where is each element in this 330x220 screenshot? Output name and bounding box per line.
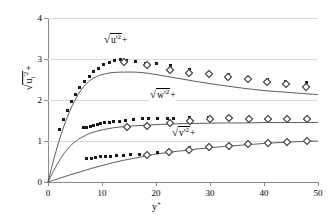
- data-point-filled-square: [99, 122, 102, 125]
- data-point-filled-square: [58, 128, 61, 131]
- series-label-v-radical: √v'2+: [172, 126, 195, 139]
- xtick-label-20: 20: [144, 189, 168, 198]
- data-point-open-diamond: [206, 115, 214, 123]
- data-point-open-diamond: [205, 143, 213, 151]
- data-point-open-diamond: [165, 148, 173, 156]
- radicand-group: ui'2: [22, 71, 38, 85]
- data-point-open-diamond: [302, 83, 310, 91]
- data-point-filled-square: [96, 123, 99, 126]
- xtick-label-10: 10: [90, 189, 114, 198]
- data-point-open-diamond: [281, 80, 289, 88]
- data-point-filled-square: [104, 155, 107, 158]
- xtick-label-0: 0: [36, 189, 60, 198]
- series-label-u-radical: √u'2+: [104, 33, 127, 46]
- data-point-open-diamond: [165, 65, 173, 73]
- data-point-filled-square: [62, 118, 65, 121]
- series-label-w-radical: √w'2+: [150, 88, 175, 101]
- data-point-filled-square: [70, 100, 73, 103]
- data-point-filled-square: [132, 118, 135, 121]
- data-point-filled-square: [147, 117, 150, 120]
- data-point-filled-square: [78, 86, 81, 89]
- data-point-filled-square: [122, 154, 125, 157]
- radicand-superscript: 2: [186, 126, 190, 134]
- x-axis-superscript: +: [157, 200, 161, 208]
- data-point-open-diamond: [205, 70, 213, 78]
- series-label-w: √w'2+: [149, 88, 176, 101]
- data-point-filled-square: [172, 117, 175, 120]
- x-axis-line: [48, 182, 319, 183]
- data-point-filled-square: [83, 80, 86, 83]
- data-point-filled-square: [118, 120, 121, 123]
- data-point-filled-square: [129, 153, 132, 156]
- data-point-filled-square: [94, 156, 97, 159]
- x-axis-title: y+: [152, 200, 161, 212]
- data-point-filled-square: [92, 124, 95, 127]
- data-point-filled-square: [156, 117, 159, 120]
- y-axis-title: √ui'2+: [22, 46, 38, 110]
- data-point-filled-square: [109, 155, 112, 158]
- series-label-u: √u'2+: [103, 33, 128, 46]
- data-point-open-diamond: [185, 145, 193, 153]
- data-point-open-diamond: [283, 115, 291, 123]
- ytick-label-0: 0: [26, 178, 42, 187]
- data-point-filled-square: [138, 153, 141, 156]
- data-point-open-diamond: [143, 151, 151, 159]
- data-point-filled-square: [156, 151, 159, 154]
- data-point-open-diamond: [123, 123, 131, 131]
- data-point-filled-square: [113, 59, 116, 62]
- radicand-group: v'2: [178, 126, 190, 139]
- data-point-open-diamond: [244, 74, 252, 82]
- data-point-filled-square: [99, 155, 102, 158]
- series-label-v: √v'2+: [171, 126, 196, 139]
- data-point-filled-square: [124, 119, 127, 122]
- radicand-base: u: [23, 78, 34, 83]
- data-point-filled-square: [92, 70, 95, 73]
- data-point-filled-square: [85, 157, 88, 160]
- radicand-superscript: 2: [166, 88, 170, 96]
- data-point-filled-square: [112, 120, 115, 123]
- series-plus: +: [122, 35, 127, 45]
- radicand-superscript: '2: [22, 72, 30, 77]
- data-point-open-diamond: [282, 138, 290, 146]
- data-point-open-diamond: [185, 68, 193, 76]
- data-point-open-diamond: [245, 115, 253, 123]
- data-point-open-diamond: [224, 73, 232, 81]
- data-point-open-diamond: [244, 140, 252, 148]
- data-point-open-diamond: [225, 114, 233, 122]
- data-point-filled-square: [115, 154, 118, 157]
- series-plus: +: [170, 90, 175, 100]
- ytick-label-1: 1: [26, 137, 42, 146]
- data-point-open-diamond: [303, 115, 311, 123]
- data-point-filled-square: [108, 61, 111, 64]
- radicand-base: w': [157, 90, 166, 100]
- data-point-open-diamond: [143, 122, 151, 130]
- data-markers: [48, 18, 318, 182]
- plot-area: √u'2+ √w'2+ √v'2+: [48, 18, 318, 182]
- series-plus: +: [190, 128, 195, 138]
- data-point-filled-square: [155, 62, 158, 65]
- radicand-group: w'2: [156, 88, 170, 101]
- data-point-filled-square: [97, 67, 100, 70]
- radical-sign: √: [22, 84, 34, 90]
- data-point-filled-square: [90, 157, 93, 160]
- data-point-filled-square: [108, 121, 111, 124]
- data-point-filled-square: [88, 75, 91, 78]
- data-point-filled-square: [141, 117, 144, 120]
- radicand-subscript: i: [29, 77, 37, 79]
- data-point-filled-square: [66, 109, 69, 112]
- ytick-label-4: 4: [26, 14, 42, 23]
- data-point-filled-square: [74, 93, 77, 96]
- data-point-open-diamond: [264, 138, 272, 146]
- xtick-label-30: 30: [198, 189, 222, 198]
- chart-figure: 4 3 2 1 0 0 10 20 30 40 50 √ui'2+ y+: [0, 0, 330, 220]
- radicand-group: u'2: [110, 33, 122, 46]
- radicand-superscript: 2: [118, 33, 122, 41]
- data-point-filled-square: [134, 60, 137, 63]
- data-point-filled-square: [102, 63, 105, 66]
- data-point-filled-square: [103, 121, 106, 124]
- data-point-open-diamond: [302, 137, 310, 145]
- y-axis-radical: √ui'2+: [22, 65, 38, 90]
- xtick-label-40: 40: [252, 189, 276, 198]
- data-point-open-diamond: [264, 115, 272, 123]
- xtick-label-50: 50: [306, 189, 330, 198]
